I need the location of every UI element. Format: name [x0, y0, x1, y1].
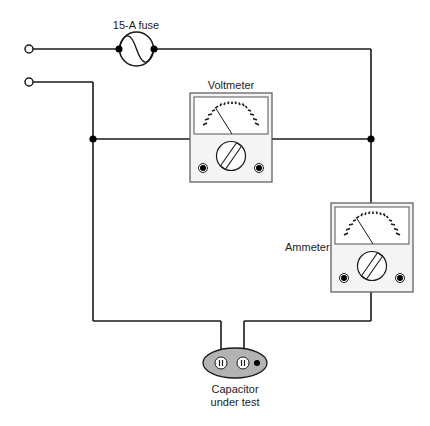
voltmeter-label: Voltmeter — [208, 79, 254, 92]
capacitor-label-line1: Capacitor — [211, 383, 258, 396]
terminal-bottom-icon — [25, 78, 33, 86]
voltmeter-icon — [190, 93, 272, 182]
terminal-top-icon — [25, 45, 33, 53]
fuse-icon — [116, 32, 158, 66]
ammeter-label: Ammeter — [285, 241, 330, 254]
fuse-label: 15-A fuse — [113, 19, 159, 32]
ammeter-icon — [331, 203, 413, 292]
circuit-canvas — [0, 0, 430, 426]
junction-right-icon — [367, 135, 374, 142]
junction-left-icon — [89, 135, 96, 142]
capacitor-icon — [203, 348, 267, 378]
circuit-diagram: 15-A fuse Voltmeter Ammeter Capacitor un… — [0, 0, 430, 426]
capacitor-label-line2: under test — [211, 396, 260, 409]
